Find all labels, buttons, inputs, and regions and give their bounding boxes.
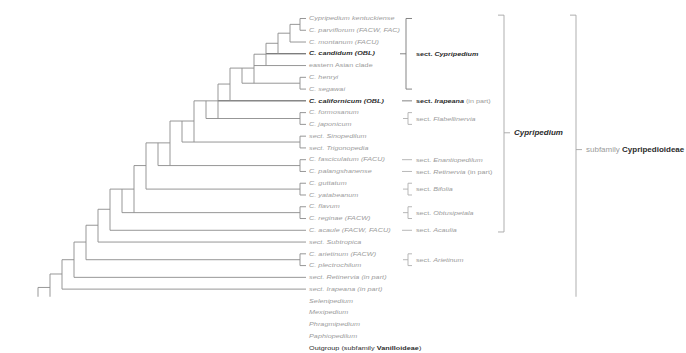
tip-label-phragmipedium: Phragmipedium xyxy=(309,321,360,328)
bracket-sect-flabellinervia xyxy=(408,113,412,125)
bracket-sect-bifolia xyxy=(408,183,412,195)
bracket-subfamily-cypripedioideae xyxy=(570,15,576,297)
tip-label-palangshanense: C. palangshanense xyxy=(309,168,372,175)
tip-label-sect-trigonopedia: sect. Trigonopedia xyxy=(309,145,369,152)
section-label-arietinum: sect. Arietinum xyxy=(416,256,464,264)
clade-label-cypripedioideae: subfamily Cypripedioideae xyxy=(586,146,684,154)
outgroup-subfamily-name: Vanilloideae xyxy=(377,344,419,352)
tip-label-sect-retinervia: sect. Retinervia (in part) xyxy=(309,274,387,281)
bracket-sect-arietinum xyxy=(408,254,412,266)
tip-label-eastern-asian-clade: eastern Asian clade xyxy=(309,62,373,69)
tip-label-flavum: C. flavum xyxy=(309,203,340,210)
bracket-genus-cypripedium xyxy=(498,15,504,232)
tip-label-candidum: C. candidum (OBL) xyxy=(309,50,375,57)
tip-label-outgroup: Outgroup (subfamily Vanilloideae) xyxy=(309,345,421,352)
section-label-bifolia: sect. Bifolia xyxy=(416,185,453,193)
tip-label-mexipedium: Mexipedium xyxy=(309,309,348,316)
subfamily-prefix: subfamily xyxy=(586,146,622,154)
section-label-flabellinervia: sect. Flabellinervia xyxy=(416,115,476,123)
clade-label-cypripedium: Cypripedium xyxy=(514,129,563,137)
outgroup-paren: ) xyxy=(419,344,421,352)
tip-label-arietinum: C. arietinum (FACW) xyxy=(309,250,376,257)
section-label-cypripedium: sect. Cypripedium xyxy=(416,50,478,58)
phylogenetic-tree-figure: Cypripedium kentuckiense C. parviflorum … xyxy=(0,0,686,297)
tip-label-acaule: C. acaule (FACW, FACU) xyxy=(309,227,391,234)
outgroup-text: Outgroup (subfamily xyxy=(309,344,377,352)
tip-label-sect-irapeana: sect. Irapeana (in part) xyxy=(309,286,383,293)
section-label-obtusipetala: sect. Obtusipetala xyxy=(416,209,474,217)
section-label-retinervia: sect. Retinervia (in part) xyxy=(416,168,492,176)
subfamily-name: Cypripedioideae xyxy=(622,146,684,154)
section-label-acaulia: sect. Acaulia xyxy=(416,227,457,235)
tip-label-fasciculatum: C. fasciculatum (FACU) xyxy=(309,156,385,163)
branch-lines xyxy=(26,18,306,296)
tip-label-guttatum: C. guttatum xyxy=(309,180,347,187)
bracket-sect-cypripedium xyxy=(406,18,412,89)
tip-label-selenipedium: Selenipedium xyxy=(309,298,353,305)
tip-label-henryi: C. henryi xyxy=(309,74,338,81)
tip-label-plectrochilum: C. plectrochilum xyxy=(309,262,361,269)
tip-label-sect-sinopedilum: sect. Sinopedilum xyxy=(309,133,367,140)
tip-label-japonicum: C. japonicum xyxy=(309,121,352,128)
tip-label-parviflorum: C. parviflorum (FACW, FAC) xyxy=(309,27,400,34)
tip-label-paphiopedilum: Paphiopedilum xyxy=(309,333,357,340)
tip-label-montanum: C. montanum (FACU) xyxy=(309,39,379,46)
tip-label-segawai: C. segawai xyxy=(309,86,345,93)
tip-label-kentuckiense: Cypripedium kentuckiense xyxy=(309,15,395,22)
tip-label-sect-subtropica: sect. Subtropica xyxy=(309,239,361,246)
tip-label-californicum: C. californicum (OBL) xyxy=(309,97,384,104)
tip-label-yatabeanum: C. yatabeanum xyxy=(309,192,358,199)
tip-label-reginae: C. reginae (FACW) xyxy=(309,215,370,222)
section-label-irapeana: sect. Irapeana (in part) xyxy=(416,97,491,105)
clade-brackets xyxy=(498,15,582,297)
bracket-sect-obtusipetala xyxy=(408,207,412,219)
tip-label-formosanum: C. formosanum xyxy=(309,109,359,116)
section-label-enantiopedilum: sect. Enantiopedilum xyxy=(416,156,483,164)
section-brackets xyxy=(400,18,412,265)
